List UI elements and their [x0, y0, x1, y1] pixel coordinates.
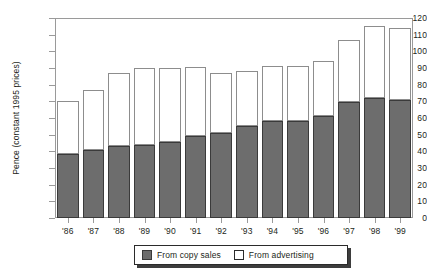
bar-group — [389, 18, 411, 218]
bar-segment-advertising — [287, 66, 309, 121]
x-axis-tick-label: '98 — [362, 226, 388, 236]
bar-segment-copy-sales — [313, 116, 335, 218]
y-axis-tick — [49, 201, 55, 202]
y-axis-tick — [49, 18, 55, 19]
bar-group — [108, 18, 130, 218]
bar-segment-advertising — [83, 90, 105, 150]
x-axis-tick-label: '86 — [55, 226, 81, 236]
bar-segment-copy-sales — [262, 121, 284, 218]
legend-label-advertising: From advertising — [249, 250, 314, 260]
chart-legend: From copy sales From advertising — [134, 245, 348, 265]
y-axis-tick — [49, 118, 55, 119]
bar-segment-copy-sales — [389, 100, 411, 218]
bar-group — [57, 18, 79, 218]
bar-segment-copy-sales — [210, 133, 232, 218]
bar-group — [262, 18, 284, 218]
y-axis-tick — [49, 101, 55, 102]
x-axis-tick — [324, 218, 325, 223]
bar-group — [287, 18, 309, 218]
x-axis-tick-label: '88 — [106, 226, 132, 236]
bar-group — [159, 18, 181, 218]
x-axis-tick — [298, 218, 299, 223]
x-axis-tick — [349, 218, 350, 223]
x-axis-tick — [272, 218, 273, 223]
stacked-bar-chart: Pence (constant 1995 prices) 12011010090… — [0, 0, 427, 274]
bar-segment-copy-sales — [134, 145, 156, 218]
bar-group — [210, 18, 232, 218]
x-axis-tick-label: '96 — [311, 226, 337, 236]
x-axis-tick-label: '91 — [183, 226, 209, 236]
y-axis-tick — [49, 218, 55, 219]
bar-segment-advertising — [364, 26, 386, 98]
bar-segment-advertising — [210, 73, 232, 133]
x-axis-tick — [119, 218, 120, 223]
y-axis-tick — [49, 185, 55, 186]
x-axis-tick — [375, 218, 376, 223]
x-axis-tick — [196, 218, 197, 223]
legend-label-copy-sales: From copy sales — [157, 250, 221, 260]
filled-grey-swatch-icon — [142, 250, 152, 260]
bar-segment-advertising — [134, 68, 156, 145]
x-axis-tick — [247, 218, 248, 223]
bar-segment-advertising — [57, 101, 79, 154]
bar-group — [134, 18, 156, 218]
bar-segment-copy-sales — [364, 98, 386, 218]
x-axis-tick-label: '93 — [234, 226, 260, 236]
bar-segment-copy-sales — [338, 102, 360, 218]
y-axis-tick — [49, 135, 55, 136]
x-axis-tick-label: '90 — [157, 226, 183, 236]
x-axis-tick — [170, 218, 171, 223]
y-axis-tick — [49, 151, 55, 152]
y-axis-tick — [49, 51, 55, 52]
bar-segment-advertising — [313, 61, 335, 116]
bar-segment-copy-sales — [185, 136, 207, 218]
x-axis-tick-label: '89 — [132, 226, 158, 236]
bar-group — [236, 18, 258, 218]
bar-segment-copy-sales — [57, 154, 79, 218]
x-axis-tick — [221, 218, 222, 223]
y-axis-tick — [49, 68, 55, 69]
legend-item-copy-sales: From copy sales — [142, 246, 221, 264]
bar-segment-copy-sales — [83, 150, 105, 218]
x-axis-tick-label: '95 — [285, 226, 311, 236]
bar-group — [83, 18, 105, 218]
bar-segment-advertising — [185, 67, 207, 136]
outlined-white-swatch-icon — [234, 250, 244, 260]
bar-group — [364, 18, 386, 218]
bar-group — [185, 18, 207, 218]
x-axis-tick-label: '99 — [387, 226, 413, 236]
bar-segment-copy-sales — [108, 146, 130, 218]
bar-segment-advertising — [338, 40, 360, 103]
x-axis-tick — [93, 218, 94, 223]
y-axis-tick — [49, 35, 55, 36]
x-axis-tick — [145, 218, 146, 223]
bar-segment-advertising — [108, 73, 130, 146]
bar-segment-advertising — [389, 28, 411, 100]
y-axis-tick — [49, 168, 55, 169]
bar-segment-copy-sales — [287, 121, 309, 219]
bar-group — [338, 18, 360, 218]
x-axis-tick — [400, 218, 401, 223]
bar-segment-copy-sales — [159, 142, 181, 218]
bar-segment-advertising — [236, 71, 258, 126]
y-axis-tick — [49, 85, 55, 86]
bar-group — [313, 18, 335, 218]
y-axis-title: Pence (constant 1995 prices) — [9, 18, 23, 218]
bar-segment-advertising — [159, 68, 181, 142]
bar-segment-advertising — [262, 66, 284, 122]
x-axis-tick-label: '97 — [336, 226, 362, 236]
x-axis-tick-label: '87 — [81, 226, 107, 236]
x-axis-tick-label: '92 — [208, 226, 234, 236]
x-axis-tick-label: '94 — [260, 226, 286, 236]
legend-item-advertising: From advertising — [234, 246, 314, 264]
bar-segment-copy-sales — [236, 126, 258, 218]
x-axis-tick — [68, 218, 69, 223]
